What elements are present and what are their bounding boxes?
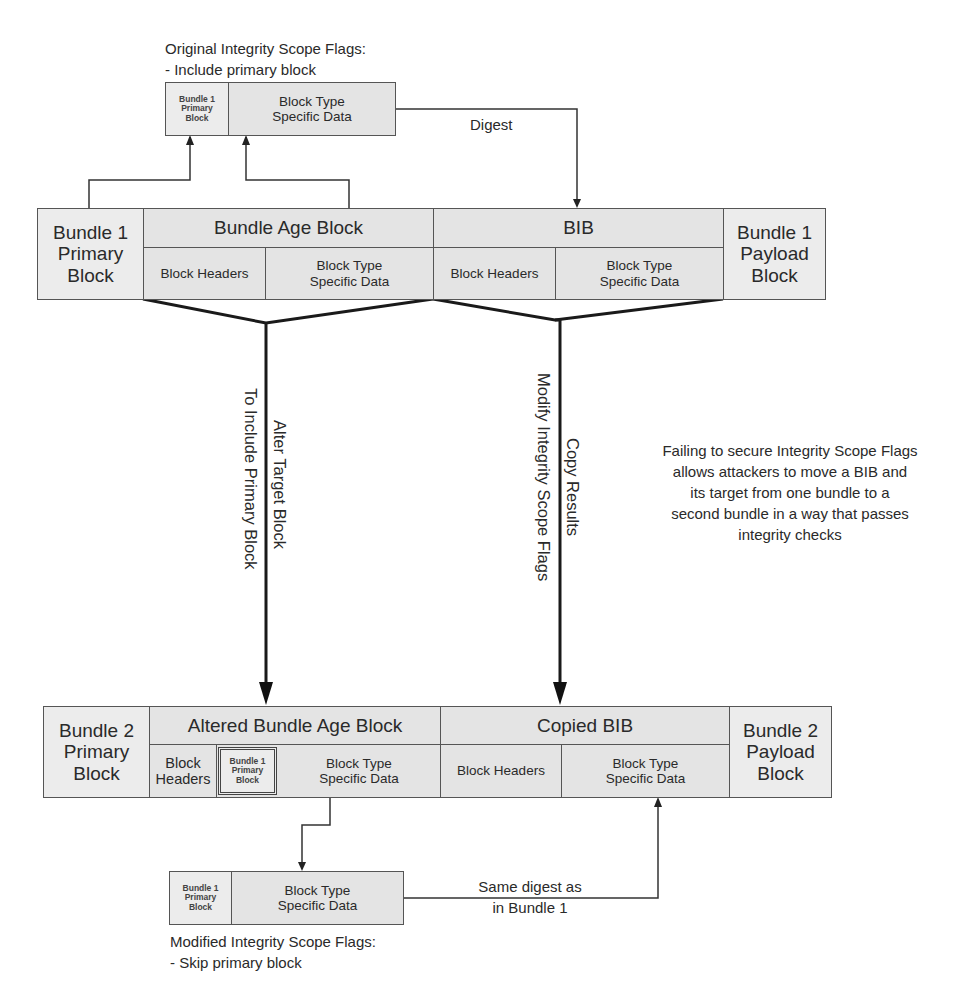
arrow-primary-to-scope: [89, 137, 190, 208]
bundle1-bib-data: Block TypeSpecific Data: [555, 247, 724, 300]
brace-right: [433, 299, 723, 320]
modified-flags-title: Modified Integrity Scope Flags:: [170, 931, 376, 952]
bundle1-payload-block: Bundle 1 Payload Block: [723, 208, 826, 300]
bundle2-bib-data: Block TypeSpecific Data: [561, 744, 730, 798]
bundle1-age-data: Block TypeSpecific Data: [265, 247, 434, 300]
modified-flags-item: - Skip primary block: [170, 952, 376, 973]
same-digest-label: Same digest as in Bundle 1: [430, 876, 630, 918]
digest-label: Digest: [470, 116, 513, 133]
alter-target-label: Alter Target Block: [270, 420, 289, 549]
bundle2-bib-headers: Block Headers: [440, 744, 562, 798]
modified-flags-note: Modified Integrity Scope Flags: - Skip p…: [170, 931, 376, 973]
attack-explanation-note: Failing to secure Integrity Scope Flags …: [610, 440, 970, 545]
bundle2-age-data-label: Block TypeSpecific Data: [277, 749, 441, 793]
bundle2-primary-block: Bundle 2 Primary Block: [43, 706, 150, 798]
bundle2-copied-bib-header: Copied BIB: [440, 706, 730, 745]
top-scope-primary-block: Bundle 1 Primary Block: [165, 82, 229, 136]
original-flags-title: Original Integrity Scope Flags:: [165, 38, 366, 59]
bundle1-bib-header: BIB: [433, 208, 724, 248]
bundle2-age-headers: BlockHeaders: [149, 744, 217, 798]
bundle2-payload-block: Bundle 2 Payload Block: [729, 706, 832, 798]
include-primary-label: To Include Primary Block: [241, 388, 260, 570]
bundle1-bib-headers: Block Headers: [433, 247, 556, 300]
bottom-scope-data-block: Block TypeSpecific Data: [231, 871, 404, 925]
modify-flags-label: Modify Integrity Scope Flags: [534, 373, 553, 581]
original-flags-note: Original Integrity Scope Flags: - Includ…: [165, 38, 366, 80]
embedded-bundle1-primary-block: Bundle 1 Primary Block: [218, 747, 277, 795]
bottom-scope-primary-block: Bundle 1 Primary Block: [169, 871, 232, 925]
bundle1-age-headers: Block Headers: [143, 247, 266, 300]
top-scope-data-block: Block Type Specific Data: [228, 82, 396, 136]
bundle1-primary-block: Bundle 1 Primary Block: [37, 208, 144, 300]
arrow-down-to-modified-scope: [302, 797, 330, 862]
brace-left: [143, 299, 433, 323]
bundle2-altered-age-block-header: Altered Bundle Age Block: [149, 706, 441, 745]
arrow-agedata-to-scope: [246, 137, 349, 208]
original-flags-item: - Include primary block: [165, 59, 366, 80]
copy-results-label: Copy Results: [563, 438, 582, 536]
bundle1-age-block-header: Bundle Age Block: [143, 208, 434, 248]
